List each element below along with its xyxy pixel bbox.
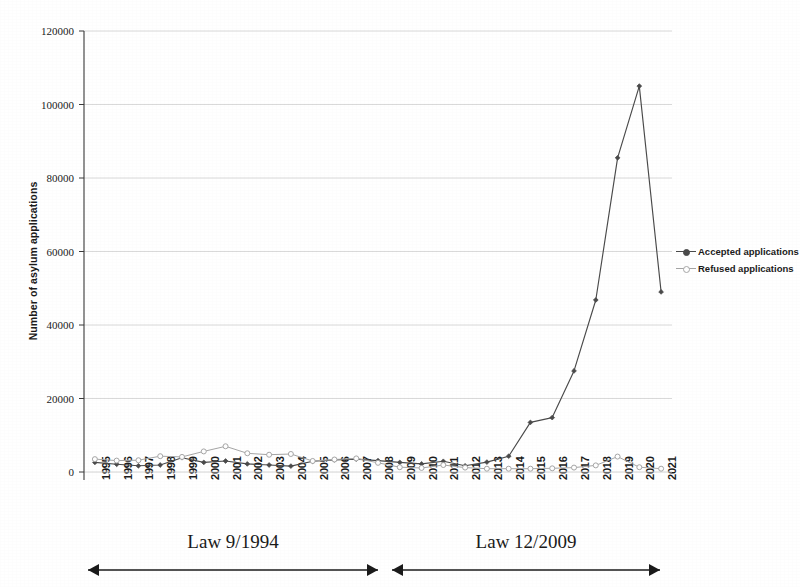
law-period-arrows bbox=[0, 0, 800, 587]
arrow-head-icon bbox=[649, 564, 660, 576]
arrow-head-icon bbox=[367, 564, 378, 576]
arrow-head-icon bbox=[392, 564, 403, 576]
asylum-applications-line-chart: Number of asylum applications 0200004000… bbox=[0, 0, 800, 587]
arrow-head-icon bbox=[88, 564, 99, 576]
